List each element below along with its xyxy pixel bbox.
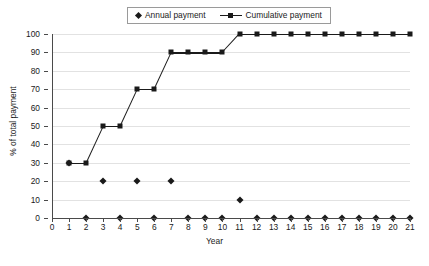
data-point-marker (236, 196, 243, 203)
x-tick-label: 1 (67, 222, 72, 232)
y-tick-mark (44, 71, 48, 72)
data-point-marker (322, 32, 327, 37)
data-point-marker (135, 87, 140, 92)
x-tick-label: 13 (269, 222, 278, 232)
data-point-marker (84, 160, 89, 165)
x-tick-mark (137, 218, 138, 222)
y-axis-line (52, 34, 53, 218)
y-tick-label: 30 (31, 158, 40, 168)
gridline (52, 144, 410, 145)
data-point-marker (100, 178, 107, 185)
y-tick-label: 90 (31, 47, 40, 57)
x-tick-label: 15 (303, 222, 312, 232)
x-tick-mark (274, 218, 275, 222)
y-tick-label: 10 (31, 195, 40, 205)
diamond-marker-icon (135, 12, 142, 19)
x-tick-label: 6 (152, 222, 157, 232)
data-point-marker (134, 178, 141, 185)
data-point-marker (101, 124, 106, 129)
square-marker-icon (220, 13, 242, 18)
chart-container: Annual payment Cumulative payment 010203… (0, 0, 429, 266)
x-tick-label: 11 (235, 222, 244, 232)
y-tick-label: 100 (26, 29, 40, 39)
data-point-marker (339, 32, 344, 37)
y-tick-label: 50 (31, 121, 40, 131)
y-tick-label: 70 (31, 84, 40, 94)
x-axis-title: Year (0, 236, 429, 246)
y-tick-mark (44, 108, 48, 109)
data-point-marker (356, 32, 361, 37)
data-point-marker (203, 50, 208, 55)
x-tick-mark (308, 218, 309, 222)
y-tick-mark (44, 218, 48, 219)
x-tick-label: 5 (135, 222, 140, 232)
data-point-marker (152, 87, 157, 92)
x-tick-mark (86, 218, 87, 222)
data-point-marker (67, 160, 72, 165)
y-tick-label: 20 (31, 176, 40, 186)
x-tick-label: 4 (118, 222, 123, 232)
data-point-marker (186, 50, 191, 55)
y-tick-label: 60 (31, 103, 40, 113)
data-point-marker (168, 178, 175, 185)
data-point-marker (373, 32, 378, 37)
y-tick-mark (44, 126, 48, 127)
legend-label-annual-payment: Annual payment (145, 10, 206, 21)
y-tick-mark (44, 163, 48, 164)
data-point-marker (237, 32, 242, 37)
x-tick-mark (222, 218, 223, 222)
x-tick-label: 14 (286, 222, 295, 232)
x-tick-label: 7 (169, 222, 174, 232)
x-tick-mark (52, 218, 53, 222)
y-tick-mark (44, 200, 48, 201)
x-axis-line (52, 218, 410, 219)
x-tick-mark (257, 218, 258, 222)
data-point-marker (390, 32, 395, 37)
x-tick-mark (171, 218, 172, 222)
data-point-marker (305, 32, 310, 37)
y-tick-label: 40 (31, 139, 40, 149)
y-tick-mark (44, 181, 48, 182)
legend-label-cumulative-payment: Cumulative payment (246, 10, 322, 21)
x-tick-mark (240, 218, 241, 222)
gridline (52, 52, 410, 53)
x-tick-mark (376, 218, 377, 222)
legend-item-cumulative-payment: Cumulative payment (220, 10, 322, 21)
gridline (52, 89, 410, 90)
x-tick-label: 10 (218, 222, 227, 232)
x-tick-mark (393, 218, 394, 222)
x-tick-mark (69, 218, 70, 222)
y-tick-mark (44, 144, 48, 145)
x-tick-mark (359, 218, 360, 222)
x-tick-label: 12 (252, 222, 261, 232)
x-tick-mark (205, 218, 206, 222)
y-axis-title: % of total payment (8, 61, 18, 181)
gridline (52, 163, 410, 164)
y-tick-mark (44, 34, 48, 35)
x-tick-mark (325, 218, 326, 222)
x-tick-label: 19 (371, 222, 380, 232)
x-tick-label: 20 (388, 222, 397, 232)
y-tick-mark (44, 89, 48, 90)
x-tick-label: 16 (320, 222, 329, 232)
x-tick-label: 3 (101, 222, 106, 232)
x-tick-label: 17 (337, 222, 346, 232)
x-tick-mark (291, 218, 292, 222)
data-point-marker (254, 32, 259, 37)
x-tick-mark (188, 218, 189, 222)
x-tick-mark (120, 218, 121, 222)
x-tick-label: 0 (50, 222, 55, 232)
data-point-marker (169, 50, 174, 55)
x-tick-label: 9 (203, 222, 208, 232)
legend-item-annual-payment: Annual payment (136, 10, 206, 21)
data-point-marker (271, 32, 276, 37)
data-point-marker (288, 32, 293, 37)
x-tick-label: 18 (354, 222, 363, 232)
x-tick-mark (342, 218, 343, 222)
gridline (52, 200, 410, 201)
x-tick-mark (154, 218, 155, 222)
y-tick-label: 80 (31, 66, 40, 76)
gridline (52, 71, 410, 72)
gridline (52, 108, 410, 109)
x-tick-mark (410, 218, 411, 222)
